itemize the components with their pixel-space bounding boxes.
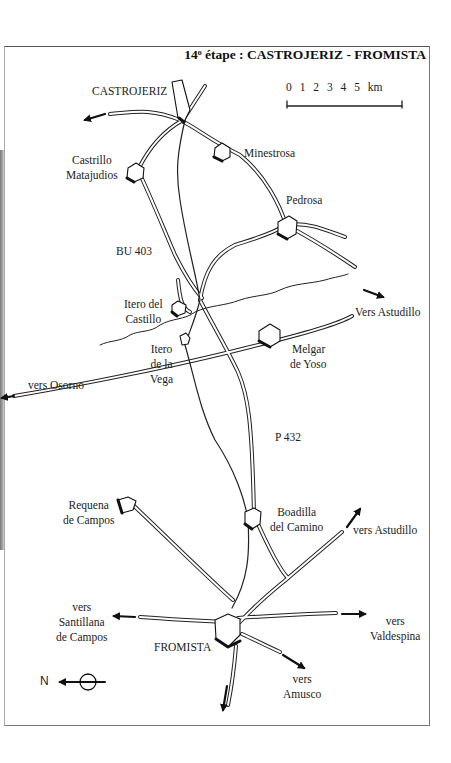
north-arrow-icon — [60, 674, 105, 690]
label-line: de Campos — [63, 513, 114, 528]
label-castrojeriz: CASTROJERIZ — [92, 84, 167, 99]
label-vers-astudillo-upper: Vers Astudillo — [355, 305, 421, 320]
camino-path — [178, 120, 249, 608]
label-line: Valdespina — [370, 629, 420, 644]
label-line: Castrillo — [66, 153, 118, 168]
label-vers-astudillo-lower: vers Astudillo — [353, 523, 417, 538]
label-line: Requena — [63, 498, 114, 513]
label-vers-santillana: vers Santillana de Campos — [56, 600, 107, 645]
label-line: del Camino — [270, 520, 323, 535]
scale-bar — [287, 101, 402, 108]
label-line: Matajudios — [66, 168, 118, 183]
label-line: Itero — [150, 342, 173, 357]
label-line: Vega — [150, 372, 173, 387]
label-line: Boadilla — [270, 505, 323, 520]
label-line: de la — [150, 357, 173, 372]
label-line: Santillana — [56, 615, 107, 630]
label-line: de Campos — [56, 630, 107, 645]
label-itero-vega: Itero de la Vega — [150, 342, 173, 387]
label-line: Amusco — [283, 687, 321, 702]
label-castrillo: Castrillo Matajudios — [66, 153, 118, 183]
label-pedrosa: Pedrosa — [286, 193, 322, 208]
label-line: de Yoso — [290, 357, 326, 372]
town-markers — [118, 80, 297, 647]
label-fromista: FROMISTA — [154, 640, 211, 655]
label-line: vers — [283, 672, 321, 687]
label-melgar: Melgar de Yoso — [290, 342, 326, 372]
label-road-bu403: BU 403 — [116, 244, 152, 259]
label-line: Melgar — [290, 342, 326, 357]
north-label: N — [40, 674, 49, 688]
label-vers-valdespina: vers Valdespina — [370, 614, 420, 644]
label-requena: Requena de Campos — [63, 498, 114, 528]
label-vers-amusco: vers Amusco — [283, 672, 321, 702]
label-itero-castillo: Itero del Castillo — [124, 297, 163, 327]
label-minestrosa: Minestrosa — [244, 146, 295, 161]
label-line: Castillo — [124, 312, 163, 327]
label-boadilla: Boadilla del Camino — [270, 505, 323, 535]
label-road-p432: P 432 — [275, 430, 301, 445]
label-line: vers — [56, 600, 107, 615]
label-vers-osorno: vers Osorno — [28, 378, 84, 393]
label-line: Itero del — [124, 297, 163, 312]
label-line: vers — [370, 614, 420, 629]
